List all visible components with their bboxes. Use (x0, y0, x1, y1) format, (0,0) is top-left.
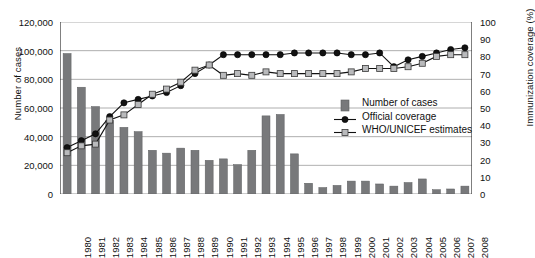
data-point-marker (448, 52, 454, 58)
data-point-marker (192, 67, 198, 73)
x-axis-tick-label: 1997 (323, 237, 334, 258)
x-axis-tick-label: 1995 (295, 237, 306, 258)
bar (390, 186, 398, 194)
data-point-marker (149, 91, 155, 97)
data-point-marker (93, 141, 99, 147)
y-axis-right-tick-label: 0 (480, 189, 485, 200)
x-axis-tick-label: 2008 (480, 237, 491, 258)
data-point-marker (405, 64, 411, 70)
data-point-marker (64, 150, 70, 156)
data-point-marker (377, 50, 383, 56)
data-point-marker (362, 65, 368, 71)
bar (433, 190, 441, 194)
x-axis-tick-label: 2007 (465, 237, 476, 258)
legend-square-line-icon (333, 125, 357, 138)
bar (305, 183, 313, 194)
data-point-marker (121, 112, 127, 118)
data-point-marker (92, 131, 98, 137)
y-axis-left-tick-label: 0 (48, 189, 53, 200)
bar (234, 165, 242, 194)
x-axis-tick-label: 1982 (110, 237, 121, 258)
data-point-marker (277, 52, 283, 58)
x-axis-tick-label: 1987 (181, 237, 192, 258)
x-axis-tick-label: 1980 (82, 237, 93, 258)
x-axis-tick-label: 2004 (423, 237, 434, 258)
x-axis-tick-label: 1990 (224, 237, 235, 258)
x-axis-tick-label: 1984 (139, 237, 150, 258)
x-axis-tick-label: 2000 (366, 237, 377, 258)
x-axis-tick-label: 1992 (252, 237, 263, 258)
bar (376, 184, 384, 194)
x-axis-tick-label: 1991 (238, 237, 249, 258)
x-axis-tick-label: 1989 (210, 237, 221, 258)
x-axis-tick-labels: 1980198119821983198419851986198719881989… (60, 196, 472, 241)
y-axis-left-tick-label: 60,000 (24, 103, 53, 114)
y-axis-right-tick-label: 10 (480, 171, 491, 182)
bar (106, 120, 114, 194)
bar (418, 179, 426, 194)
data-point-marker (334, 50, 340, 56)
data-point-marker (419, 53, 425, 59)
data-point-marker (462, 45, 468, 51)
legend-bar-swatch-icon (333, 98, 357, 111)
y-axis-right-tick-label: 20 (480, 154, 491, 165)
bar (404, 183, 412, 194)
y-axis-right-tick-label: 100 (480, 17, 496, 28)
bar (262, 116, 270, 194)
legend-item: Official coverage (333, 112, 493, 125)
y-axis-right-tick-label: 80 (480, 51, 491, 62)
y-axis-left-tick-label: 120,000 (19, 17, 53, 28)
bar (461, 186, 469, 194)
data-point-marker (277, 71, 283, 77)
y-axis-left-tick-label: 20,000 (24, 160, 53, 171)
data-point-marker (377, 65, 383, 71)
bar (333, 185, 341, 194)
bar (92, 107, 100, 194)
data-point-marker (164, 86, 170, 92)
x-axis-tick-label: 1996 (309, 237, 320, 258)
bar (63, 54, 71, 194)
data-point-marker (291, 50, 297, 56)
y-axis-left-tick-label: 100,000 (19, 45, 53, 56)
data-point-marker (121, 100, 127, 106)
bar (361, 181, 369, 194)
data-point-marker (462, 52, 468, 58)
legend-item-label: Number of cases (362, 97, 438, 108)
data-point-marker (234, 52, 240, 58)
x-axis-tick-label: 2002 (394, 237, 405, 258)
bar (163, 153, 171, 194)
bar (120, 127, 128, 194)
x-axis-tick-label: 1985 (153, 237, 164, 258)
x-axis-tick-label: 1988 (195, 237, 206, 258)
data-point-marker (419, 60, 425, 66)
legend-item: WHO/UNICEF estimates (333, 125, 493, 138)
y-axis-right-tick-label: 90 (480, 34, 491, 45)
legend-item-label: Official coverage (362, 111, 436, 122)
x-axis-tick-label: 1994 (281, 237, 292, 258)
data-point-marker (433, 53, 439, 59)
bar (290, 154, 298, 194)
legend-item: Number of cases (333, 98, 493, 111)
data-point-marker (391, 65, 397, 71)
bar (347, 181, 355, 194)
data-point-marker (235, 71, 241, 77)
x-axis-tick-label: 1986 (167, 237, 178, 258)
data-point-marker (107, 117, 113, 123)
x-axis-tick-label: 2001 (380, 237, 391, 258)
data-point-marker (249, 52, 255, 58)
data-point-marker (263, 69, 269, 75)
data-point-marker (206, 62, 212, 68)
data-point-marker (135, 102, 141, 108)
y-axis-left-ticks: 020,00040,00060,00080,000100,000120,000 (0, 0, 57, 241)
chart-legend: Number of casesOfficial coverageWHO/UNIC… (333, 98, 493, 138)
data-point-marker (348, 69, 354, 75)
y-axis-left-tick-label: 80,000 (24, 74, 53, 85)
x-axis-tick-label: 1983 (124, 237, 135, 258)
data-point-marker (405, 57, 411, 63)
data-point-marker (291, 71, 297, 77)
y-axis-right-title: Immunization coverage (%) (524, 3, 535, 133)
data-point-marker (334, 71, 340, 77)
data-point-marker (348, 52, 354, 58)
data-point-marker (362, 52, 368, 58)
